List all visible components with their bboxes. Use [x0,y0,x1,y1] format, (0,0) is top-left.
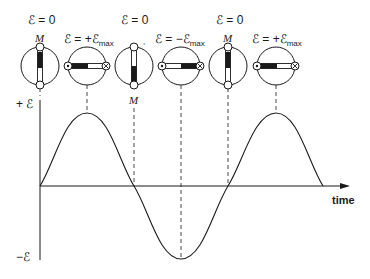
coil-0-top-end-icon [36,43,44,51]
coil-5-emf-text: ℰ = +ℰ [252,32,287,46]
coil-3-emf-sub: max [190,39,205,48]
coil-4: ℰ = 0 M [209,13,247,89]
coil-2-marker-label: M [128,94,139,106]
coil-5-emf-label: ℰ = +ℰmax [252,32,302,48]
coil-4-marker-label: M [222,32,233,44]
coil-0-bottom-end-icon [36,81,44,89]
coil-1-emf-label: ℰ = +ℰmax [64,32,114,48]
coil-5-emf-sub: max [287,39,302,48]
coil-0-emf-label: ℰ = 0 [28,13,56,27]
coil-0-conductor-black [38,52,43,68]
coil-2-conductor-black [132,66,137,82]
x-axis-arrow-icon [340,183,350,189]
coil-3-emf-text: ℰ = −ℰ [155,32,190,46]
coil-3-conductor-black [181,64,197,69]
coil-2-top-end-icon [130,43,138,51]
y-positive-label: + ℰ [16,97,33,111]
coil-1-emf-sub: max [99,39,114,48]
coil-2-emf-label: ℰ = 0 [121,13,149,27]
x-axis-label: time [332,194,355,206]
coil-3: ℰ = −ℰmax [155,32,205,85]
dot-icon-center [161,65,163,67]
coil-1-conductor-black [72,64,88,69]
coil-1: ℰ = +ℰmax [64,32,114,85]
coil-2-bottom-end-icon [130,81,138,89]
dot-icon-center [256,65,258,67]
coil-0: ℰ = 0 M [21,13,59,89]
dot-icon-center [67,65,69,67]
coil-3-emf-label: ℰ = −ℰmax [155,32,205,48]
axes [40,100,344,260]
y-negative-label: −ℰ [16,250,30,264]
coil-4-top-end-icon [224,43,232,51]
emf-time-diagram: + ℰ −ℰ time ℰ = 0 M ℰ = +ℰmax ℰ = 0 , M [0,0,370,279]
coil-1-emf-text: ℰ = +ℰ [64,32,99,46]
coil-2-tick: , [143,37,145,46]
coil-4-conductor-black [226,52,231,68]
coil-2: ℰ = 0 , M [115,13,153,106]
guide-lines [40,85,276,258]
coil-0-marker-label: M [34,32,45,44]
coil-5: ℰ = +ℰmax [252,32,302,85]
coil-5-conductor-black [261,64,277,69]
coil-4-bottom-end-icon [224,81,232,89]
coil-4-emf-label: ℰ = 0 [216,13,244,27]
